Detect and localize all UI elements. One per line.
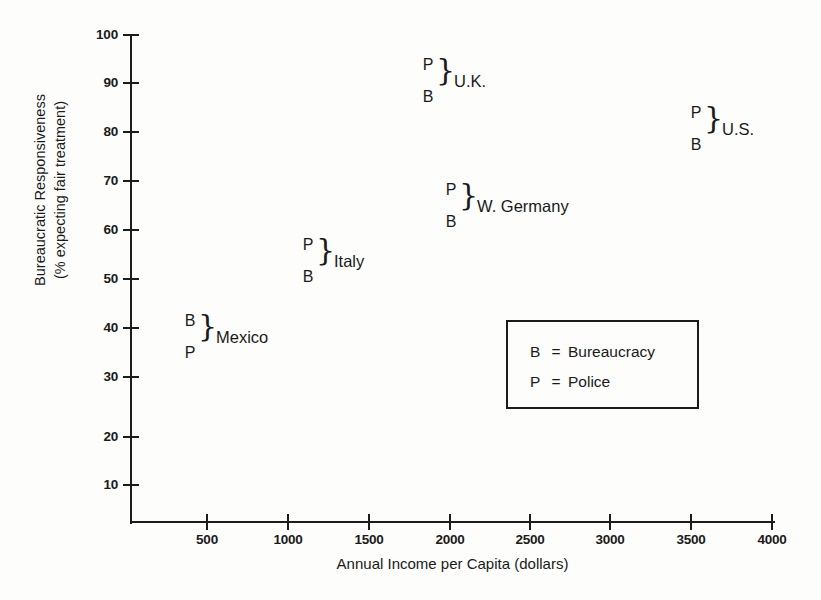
y-tick-mark xyxy=(123,484,139,486)
legend-row: P=Police xyxy=(530,374,610,390)
y-tick-label-wrap: 30 xyxy=(80,370,118,384)
y-tick-mark xyxy=(123,278,139,280)
y-tick-label-wrap: 90 xyxy=(80,76,118,90)
y-tick-label-wrap: 80 xyxy=(80,125,118,139)
data-point-country-label: U.K. xyxy=(454,73,486,90)
y-tick-label: 100 xyxy=(84,28,118,42)
data-point-letter-lower: B xyxy=(300,269,316,285)
legend-key: B xyxy=(530,344,544,360)
data-point-letter-upper: P xyxy=(420,57,436,73)
y-tick-mark xyxy=(123,376,139,378)
data-point-letter-lower: B xyxy=(688,137,704,153)
data-point-country-label: W. Germany xyxy=(477,198,569,215)
x-tick-mark xyxy=(690,514,692,530)
curly-brace-icon: } xyxy=(436,55,455,85)
y-tick-mark xyxy=(123,436,139,438)
y-tick-mark xyxy=(123,229,139,231)
y-tick-label-wrap: 60 xyxy=(80,223,118,237)
legend-equals-sign: = xyxy=(544,344,568,360)
y-axis-title: Bureaucratic Responsiveness (% expecting… xyxy=(30,0,70,390)
x-tick-label: 2000 xyxy=(420,533,480,547)
legend-key: P xyxy=(530,374,544,390)
curly-brace-icon: } xyxy=(316,235,335,265)
y-tick-mark xyxy=(123,34,139,36)
data-point-country-label: Italy xyxy=(334,253,364,270)
x-tick-mark xyxy=(609,514,611,530)
x-tick-label: 1500 xyxy=(339,533,399,547)
y-tick-label: 10 xyxy=(84,478,118,492)
x-tick-label: 2500 xyxy=(500,533,560,547)
x-tick-label: 3500 xyxy=(661,533,721,547)
data-point-letter-lower: B xyxy=(443,214,459,230)
x-tick-mark xyxy=(206,514,208,530)
x-tick-label: 3000 xyxy=(580,533,640,547)
y-tick-mark xyxy=(123,327,139,329)
legend-box: B=BureaucracyP=Police xyxy=(506,320,699,409)
x-tick-mark xyxy=(771,514,773,530)
x-tick-label: 1000 xyxy=(258,533,318,547)
y-tick-label: 30 xyxy=(84,370,118,384)
y-tick-label-wrap: 100 xyxy=(80,28,118,42)
data-point-country-label: U.S. xyxy=(722,121,754,138)
y-tick-mark xyxy=(123,82,139,84)
y-tick-label: 90 xyxy=(84,76,118,90)
curly-brace-icon: } xyxy=(198,311,217,341)
y-tick-label: 70 xyxy=(84,174,118,188)
y-tick-label-wrap: 20 xyxy=(80,430,118,444)
data-point-letter-upper: P xyxy=(300,237,316,253)
data-point-letter-lower: B xyxy=(420,89,436,105)
legend-row: B=Bureaucracy xyxy=(530,344,655,360)
data-point-letter-upper: P xyxy=(443,182,459,198)
y-tick-label: 40 xyxy=(84,321,118,335)
y-tick-label: 80 xyxy=(84,125,118,139)
data-point-letter-upper: P xyxy=(688,105,704,121)
y-tick-mark xyxy=(123,131,139,133)
curly-brace-icon: } xyxy=(704,103,723,133)
chart-figure: 100908070605040302010 500100015002000250… xyxy=(0,0,821,600)
y-tick-label-wrap: 10 xyxy=(80,478,118,492)
y-tick-label-wrap: 50 xyxy=(80,272,118,286)
y-tick-label: 60 xyxy=(84,223,118,237)
x-tick-label: 4000 xyxy=(742,533,802,547)
x-axis-line xyxy=(130,521,775,523)
data-point-country-label: Mexico xyxy=(216,329,268,346)
data-point-letter-upper: B xyxy=(182,313,198,329)
x-tick-label: 500 xyxy=(177,533,237,547)
y-tick-label: 20 xyxy=(84,430,118,444)
data-point-letter-lower: P xyxy=(182,345,198,361)
x-tick-mark xyxy=(368,514,370,530)
y-tick-mark xyxy=(123,180,139,182)
legend-label: Bureaucracy xyxy=(568,343,655,360)
y-tick-label-wrap: 40 xyxy=(80,321,118,335)
x-tick-mark xyxy=(449,514,451,530)
y-tick-label-wrap: 70 xyxy=(80,174,118,188)
scatter-plot-area: 100908070605040302010 500100015002000250… xyxy=(0,0,821,600)
x-tick-mark xyxy=(529,514,531,530)
x-axis-title: Annual Income per Capita (dollars) xyxy=(130,556,775,571)
curly-brace-icon: } xyxy=(459,180,478,210)
legend-label: Police xyxy=(568,373,610,390)
x-tick-mark xyxy=(287,514,289,530)
legend-equals-sign: = xyxy=(544,374,568,390)
y-tick-label: 50 xyxy=(84,272,118,286)
